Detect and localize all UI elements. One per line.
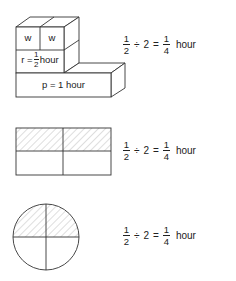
equation-3: 12 ÷ 2 = 14 hour [123,225,196,246]
equation-2: 12 ÷ 2 = 14 hour [123,140,196,161]
fraction-quarter: 14 [163,140,170,161]
shaded-half [16,128,111,151]
label-r-unit: hour [40,54,59,65]
fraction-quarter: 14 [163,34,170,55]
rectangle-model [16,128,111,175]
label-p: p = 1 hour [16,79,111,90]
label-w2: w [40,32,64,43]
circle-model [13,204,79,270]
fraction-half: 12 [123,34,130,55]
equation-1: 12 ÷ 2 = 14 hour [123,34,196,55]
fraction-quarter: 14 [163,225,170,246]
label-r-prefix: r = [21,54,32,65]
label-r-fraction: 1 2 [34,51,39,68]
label-r: r = 1 2 hour [16,51,64,68]
fraction-half: 12 [123,140,130,161]
label-w1: w [16,32,40,43]
fraction-half: 12 [123,225,130,246]
